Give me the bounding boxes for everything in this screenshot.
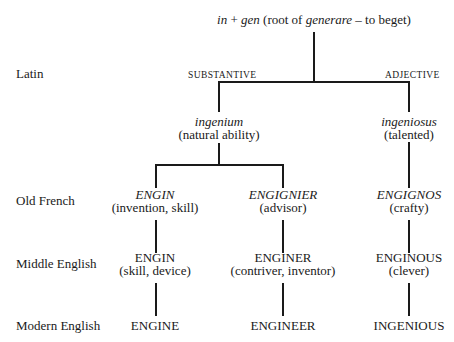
ingenium-connector <box>218 143 220 165</box>
root-gloss-open: (root of <box>260 12 306 27</box>
modern-english-word-3: INGENIOUS <box>374 318 445 333</box>
engignier-connector <box>282 164 284 188</box>
root-plus: + <box>227 12 241 27</box>
modern-english-word-1: ENGINE <box>131 318 179 333</box>
root-gloss-word: generare <box>306 12 352 27</box>
root-etymon: in + gen (root of generare – to beget) <box>217 12 411 27</box>
row-label-latin: Latin <box>16 66 43 81</box>
of-me-connector-2 <box>282 220 284 253</box>
modern-english-word-2: ENGINEER <box>251 318 316 333</box>
root-stem: gen <box>241 12 260 27</box>
row-label-old-french: Old French <box>16 193 75 208</box>
ingeniosus-connector <box>408 142 410 188</box>
root-prefix: in <box>217 12 227 27</box>
middle-english-gloss-1: (skill, device) <box>119 263 190 278</box>
row-label-middle-english: Middle English <box>16 256 97 271</box>
row-label-modern-english: Modern English <box>16 318 100 333</box>
engin-of-connector <box>155 164 157 188</box>
old-french-gloss-1: (invention, skill) <box>112 200 199 215</box>
root-gloss-close: – to beget) <box>352 12 411 27</box>
me-mode-connector-3 <box>408 283 410 316</box>
of-me-connector-3 <box>408 220 410 253</box>
old-french-gloss-3: (crafty) <box>390 200 429 215</box>
latin-adjective-gloss: (talented) <box>384 127 434 142</box>
middle-english-gloss-2: (contriver, inventor) <box>231 263 336 278</box>
adjective-connector <box>408 81 410 112</box>
ingenium-split-bar <box>155 164 284 166</box>
substantive-connector <box>218 81 220 112</box>
of-me-connector-1 <box>155 220 157 253</box>
me-mode-connector-2 <box>282 283 284 316</box>
old-french-gloss-2: (advisor) <box>260 200 307 215</box>
root-connector <box>313 32 315 82</box>
me-mode-connector-1 <box>155 283 157 316</box>
latin-split-bar <box>218 81 410 83</box>
middle-english-gloss-3: (clever) <box>389 263 429 278</box>
latin-substantive-gloss: (natural ability) <box>178 127 259 142</box>
